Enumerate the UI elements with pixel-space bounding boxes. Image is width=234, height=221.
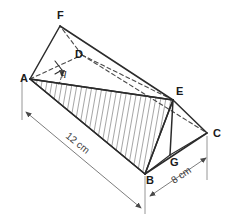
prism-diagram-svg: A B C D E F G q 12 cm 8 cm [0, 0, 234, 221]
vertex-label-b: B [146, 174, 154, 186]
edge-c-e [173, 100, 207, 133]
vertex-label-a: A [20, 72, 28, 84]
vertex-label-d: D [75, 48, 83, 60]
angle-label-theta: q [61, 66, 67, 78]
vertex-label-e: E [176, 85, 183, 97]
vertex-label-g: G [170, 156, 179, 168]
vertex-label-c: C [213, 127, 221, 139]
geometry-figure: A B C D E F G q 12 cm 8 cm [0, 0, 234, 221]
edge-g-c [170, 133, 207, 155]
dimension-label-12cm: 12 cm [64, 130, 92, 156]
vertex-label-f: F [57, 9, 64, 21]
edge-a-f [30, 26, 60, 79]
shaded-face-aeb [30, 79, 173, 174]
